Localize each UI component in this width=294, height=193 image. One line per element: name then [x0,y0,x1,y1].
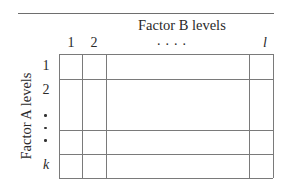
row-label-last: k [40,157,52,173]
factor-b-title: Factor B levels [138,17,226,34]
factor-a-title: Factor A levels [18,73,35,160]
grid-line [59,54,60,178]
grid-line [59,178,273,179]
grid-line [59,154,273,155]
grid-line [249,54,250,178]
column-label-2: 2 [86,35,102,51]
column-label-1: 1 [63,35,79,51]
grid-line [273,54,274,178]
top-rule [18,13,274,14]
grid-line [106,54,107,178]
column-label-last: l [257,35,273,51]
grid-line [82,54,83,178]
row-label-2: 2 [40,82,52,98]
column-ellipsis: .... [157,33,191,49]
row-ellipsis [44,114,48,152]
row-label-1: 1 [40,58,52,74]
grid-line [59,130,273,131]
levels-grid [59,54,273,178]
grid-line [59,54,273,55]
grid-line [59,79,273,80]
